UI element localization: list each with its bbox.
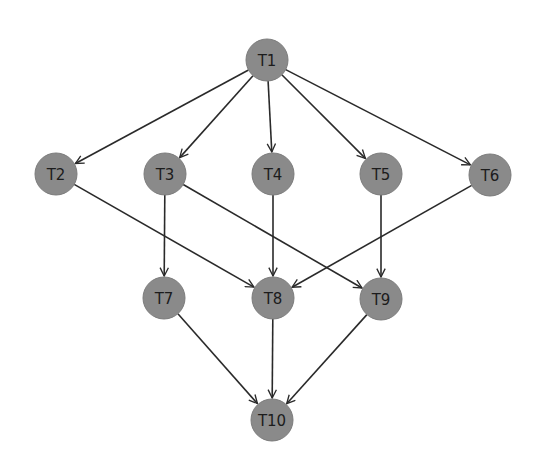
- edge-t6-to-t8: [292, 185, 472, 287]
- node-t9: T9: [360, 278, 402, 320]
- node-t5: T5: [360, 153, 402, 195]
- edge-t9-to-t10: [287, 315, 367, 404]
- edges-layer: [74, 70, 472, 404]
- edge-t1-to-t2: [75, 70, 248, 164]
- node-label: T8: [263, 290, 283, 308]
- node-label: T4: [263, 166, 283, 184]
- edge-t1-to-t4: [268, 81, 272, 152]
- node-t6: T6: [469, 154, 511, 196]
- node-t4: T4: [252, 153, 294, 195]
- node-t10: T10: [251, 399, 293, 441]
- edge-t1-to-t6: [286, 70, 471, 165]
- node-t1: T1: [246, 39, 288, 81]
- node-label: T3: [155, 166, 175, 184]
- node-t3: T3: [144, 153, 186, 195]
- node-label: T7: [154, 290, 174, 308]
- node-t7: T7: [143, 277, 185, 319]
- node-label: T5: [371, 166, 391, 184]
- edge-t7-to-t10: [178, 314, 258, 404]
- node-label: T1: [257, 52, 277, 70]
- node-t8: T8: [252, 277, 294, 319]
- node-label: T10: [257, 412, 286, 430]
- edge-t8-to-t10: [272, 319, 273, 398]
- task-graph: T1T2T3T4T5T6T7T8T9T10: [0, 0, 537, 468]
- edge-t1-to-t5: [282, 75, 366, 159]
- node-label: T9: [371, 291, 391, 309]
- node-label: T6: [480, 167, 500, 185]
- node-label: T2: [46, 166, 66, 184]
- node-t2: T2: [35, 153, 77, 195]
- edge-t3-to-t7: [164, 195, 165, 276]
